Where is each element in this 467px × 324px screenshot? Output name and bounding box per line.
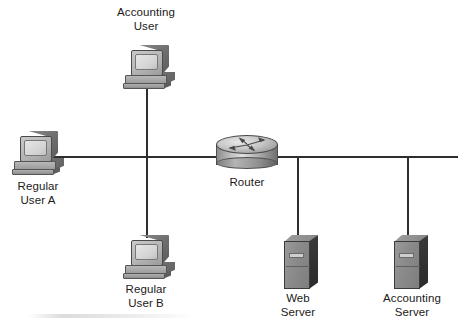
monitor-icon [131, 50, 163, 76]
stand-foot-icon [12, 169, 54, 175]
server-side-face [309, 235, 318, 289]
link-drop-web-server [297, 156, 299, 238]
server-drive-slot [399, 253, 414, 258]
scan-artifact [28, 314, 198, 318]
link-drop-regular-user-b [146, 156, 148, 238]
node-label-web-server: Web Server [266, 292, 330, 319]
router-arrows-icon [216, 135, 278, 154]
node-regular-user-a[interactable] [12, 131, 64, 175]
link-drop-accounting-user [146, 84, 148, 158]
node-label-accounting-server: Accounting Server [366, 292, 458, 319]
node-accounting-server[interactable] [394, 235, 428, 289]
monitor-icon [131, 240, 163, 266]
node-web-server[interactable] [284, 235, 318, 289]
link-drop-accounting-server [407, 156, 409, 238]
node-regular-user-b[interactable] [123, 235, 175, 279]
server-drive-slot [289, 253, 304, 258]
node-label-regular-user-b: Regular User B [110, 283, 182, 310]
link-backbone-left [48, 156, 218, 158]
link-backbone-right [272, 156, 458, 158]
monitor-icon [20, 136, 52, 162]
screen-icon [24, 140, 47, 156]
node-label-router: Router [215, 176, 279, 190]
node-router[interactable] [216, 135, 278, 169]
node-label-accounting-user: Accounting User [101, 6, 191, 33]
node-accounting-user[interactable] [123, 45, 175, 89]
screen-icon [135, 54, 158, 70]
server-panel-seam [286, 266, 310, 267]
node-label-regular-user-a: Regular User A [2, 180, 74, 207]
router-cylinder-bottom [216, 157, 278, 169]
stand-foot-icon [123, 83, 165, 89]
server-front-face [394, 241, 420, 289]
server-panel-seam [396, 266, 420, 267]
network-diagram-canvas: Accounting User Regular User A Regular U… [0, 0, 467, 324]
stand-foot-icon [123, 273, 165, 279]
server-front-face [284, 241, 310, 289]
server-side-face [419, 235, 428, 289]
screen-icon [135, 244, 158, 260]
